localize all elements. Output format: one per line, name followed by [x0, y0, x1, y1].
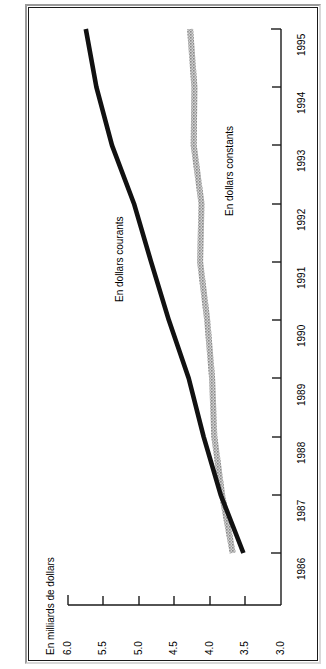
year-tick-label-1987: 1987 [296, 500, 307, 522]
value-tick-label-3-5: 3.5 [239, 641, 250, 655]
chart-svg [28, 7, 318, 661]
series-line-en-dollars-constants-tone [190, 29, 233, 553]
chart-plot-area [28, 7, 318, 661]
year-tick-label-1989: 1989 [296, 384, 307, 406]
value-tick-label-5-0: 5.0 [133, 641, 144, 655]
year-tick-label-1986: 1986 [296, 558, 307, 580]
value-axis [68, 553, 281, 605]
year-tick-label-1991: 1991 [296, 267, 307, 289]
year-axis [271, 29, 281, 553]
value-tick-label-4-0: 4.0 [204, 641, 215, 655]
value-tick-label-3-0: 3.0 [275, 641, 286, 655]
year-tick-label-1995: 1995 [296, 34, 307, 56]
year-tick-label-1994: 1994 [296, 92, 307, 114]
value-tick-label-4-5: 4.5 [168, 641, 179, 655]
year-tick-label-1992: 1992 [296, 209, 307, 231]
series-annotation-en-dollars-courants: En dollars courants [114, 216, 125, 302]
year-tick-label-1990: 1990 [296, 325, 307, 347]
series-annotation-en-dollars-constants: En dollars constants [224, 126, 235, 216]
value-tick-label-6-0: 6.0 [62, 641, 73, 655]
year-tick-label-1988: 1988 [296, 442, 307, 464]
figure-container: Dépenses en dollars courants et en dolla… [0, 0, 326, 669]
year-tick-label-1993: 1993 [296, 150, 307, 172]
value-axis-title: En milliards de dollars [45, 557, 56, 655]
value-tick-label-5-5: 5.5 [97, 641, 108, 655]
